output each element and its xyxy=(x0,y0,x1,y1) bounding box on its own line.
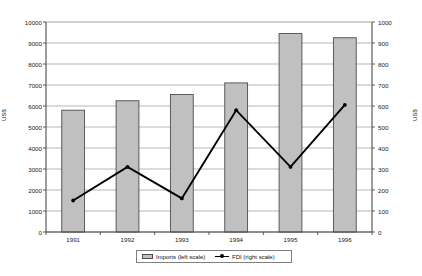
legend-entry-imports: Imports (left scale) xyxy=(142,251,205,262)
bar xyxy=(62,110,85,232)
fdi-line xyxy=(73,105,345,201)
bar xyxy=(333,38,356,232)
line-swatch-icon xyxy=(215,254,229,259)
legend-label-imports: Imports (left scale) xyxy=(156,254,205,260)
gridlines xyxy=(46,22,372,232)
fdi-point xyxy=(180,197,184,201)
plot-area xyxy=(0,0,422,276)
fdi-point xyxy=(234,108,238,112)
legend-entry-fdi: FDI (right scale) xyxy=(215,251,275,262)
bar xyxy=(225,83,248,232)
bar xyxy=(279,34,302,232)
legend-label-fdi: FDI (right scale) xyxy=(232,254,275,260)
chart-container: US$ US$ 10000900080007000600050004000300… xyxy=(0,0,422,276)
fdi-point xyxy=(343,103,347,107)
fdi-point xyxy=(126,165,130,169)
bar xyxy=(170,94,193,232)
bar-swatch-icon xyxy=(142,254,153,259)
bar-series xyxy=(62,34,356,232)
chart-legend: Imports (left scale) FDI (right scale) xyxy=(136,250,292,263)
fdi-point xyxy=(71,199,75,203)
fdi-point xyxy=(289,165,293,169)
line-series xyxy=(71,103,346,202)
